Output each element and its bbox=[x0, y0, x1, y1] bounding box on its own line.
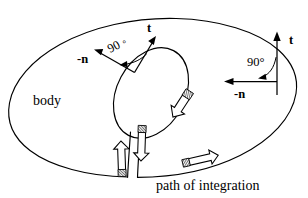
direction-arrow-slit-down-body bbox=[133, 132, 149, 162]
label-angle-inner-group: 90 ° bbox=[105, 34, 129, 56]
label-angle-inner: 90 bbox=[105, 38, 122, 56]
label-tangent-outer: t bbox=[289, 33, 294, 47]
direction-arrow-slit-up-body bbox=[113, 141, 129, 171]
figure-container: body path of integration t -n 90 ° t -n … bbox=[0, 0, 308, 198]
label-angle-inner-degree: ° bbox=[121, 38, 129, 49]
normal-vector-inner-shaft bbox=[99, 52, 135, 73]
label-body: body bbox=[33, 93, 61, 108]
label-normal-outer: -n bbox=[234, 87, 245, 101]
direction-arrow-slit-down bbox=[133, 125, 149, 161]
tangent-vector-inner-arrowhead bbox=[148, 36, 156, 45]
slit-left-edge bbox=[128, 132, 131, 177]
tangent-vector-outer-arrowhead bbox=[273, 32, 280, 42]
direction-arrow-slit-down-tail-hatch bbox=[138, 125, 146, 132]
direction-arrow-outer bbox=[181, 148, 220, 170]
path-of-integration-diagram: body path of integration t -n 90 ° t -n … bbox=[0, 0, 308, 198]
direction-arrow-hole bbox=[166, 87, 196, 122]
normal-vector-outer-arrowhead bbox=[224, 78, 234, 85]
label-path-of-integration: path of integration bbox=[156, 178, 259, 193]
angle-arc-outer-arrowhead bbox=[258, 74, 267, 80]
label-normal-inner: -n bbox=[77, 52, 88, 66]
label-angle-outer: 90° bbox=[247, 55, 265, 69]
angle-arc-outer bbox=[263, 58, 277, 78]
label-tangent-inner: t bbox=[147, 21, 152, 35]
direction-arrow-slit-up-tail-hatch bbox=[118, 169, 126, 176]
direction-arrow-outer-tail-hatch bbox=[182, 158, 191, 167]
